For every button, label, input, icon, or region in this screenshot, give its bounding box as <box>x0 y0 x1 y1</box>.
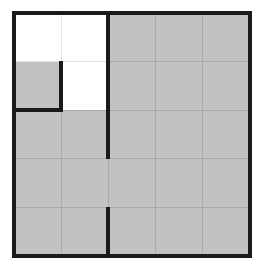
grid-diagram <box>0 0 259 268</box>
figure-root: Shaded grid region diagram A square 5-by… <box>0 0 259 268</box>
